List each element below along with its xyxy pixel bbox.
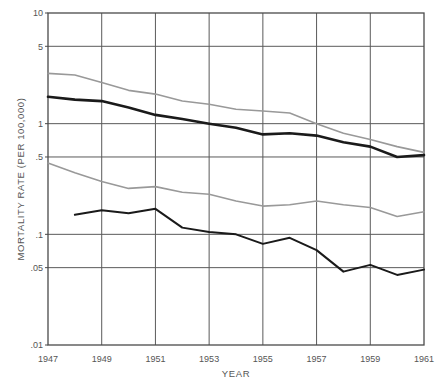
mortality-rate-line-chart: 1051.5.1.05.01 1947194919511953195519571… xyxy=(0,0,442,390)
y-tick-label: 10 xyxy=(33,8,43,18)
x-tick-label: 1961 xyxy=(414,354,434,364)
chart-container: 1051.5.1.05.01 1947194919511953195519571… xyxy=(0,0,442,390)
y-tick-label: .01 xyxy=(30,340,43,350)
y-tick-label: 5 xyxy=(38,42,43,52)
y-tick-label: .1 xyxy=(35,230,43,240)
x-tick-label: 1953 xyxy=(199,354,219,364)
x-tick-label: 1951 xyxy=(145,354,165,364)
plot-background xyxy=(0,0,442,390)
x-tick-label: 1949 xyxy=(92,354,112,364)
y-tick-label: .05 xyxy=(30,263,43,273)
x-tick-label: 1959 xyxy=(360,354,380,364)
y-axis-title: MORTALITY RATE (PER 100,000) xyxy=(15,98,26,261)
y-tick-label: 1 xyxy=(38,119,43,129)
x-tick-label: 1955 xyxy=(253,354,273,364)
x-tick-label: 1957 xyxy=(307,354,327,364)
x-axis-title: YEAR xyxy=(222,368,250,379)
x-tick-label: 1947 xyxy=(38,354,58,364)
y-tick-label: .5 xyxy=(35,152,43,162)
